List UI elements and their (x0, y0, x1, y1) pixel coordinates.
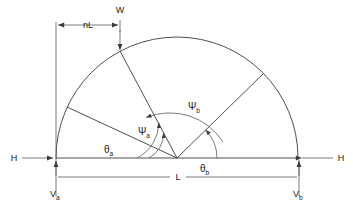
reaction-label-h-left: H (11, 153, 18, 163)
reaction-label-h-right: H (338, 153, 345, 163)
outer-arc (56, 37, 298, 158)
reaction-label-va-subscript: a (56, 194, 60, 201)
angle-label-theta-a-subscript: a (110, 150, 114, 157)
angle-label-psi-a: Ψa (138, 126, 150, 139)
radial-line-theta-a (67, 107, 177, 158)
reaction-label-vb: Vb (293, 189, 303, 201)
angle-label-theta-b-subscript: b (206, 169, 210, 176)
angle-label-psi-a-base: Ψ (138, 126, 146, 137)
angle-label-psi-b-subscript: b (196, 107, 200, 114)
angle-label-psi-a-subscript: a (146, 132, 150, 139)
angle-arc-theta-b (206, 130, 218, 158)
dimension-label-l: L (175, 172, 180, 182)
reaction-label-va: Va (50, 189, 60, 201)
arch-diagram-figure: nL W L H Va H Vb θa θb Ψa Ψb (0, 0, 353, 207)
diagram-canvas: nL W L H Va H Vb θa θb Ψa Ψb (0, 0, 353, 207)
angle-label-psi-b-base: Ψ (188, 101, 196, 112)
radial-line-theta-b (177, 73, 264, 158)
dimension-label-nl: nL (83, 20, 93, 30)
angle-label-psi-b: Ψb (188, 101, 200, 114)
angle-label-theta-a: θa (104, 144, 114, 157)
angle-label-theta-b: θb (200, 163, 210, 176)
reaction-label-vb-subscript: b (299, 194, 303, 201)
radial-line-load-w (120, 51, 177, 158)
load-label-w: W (116, 5, 125, 15)
